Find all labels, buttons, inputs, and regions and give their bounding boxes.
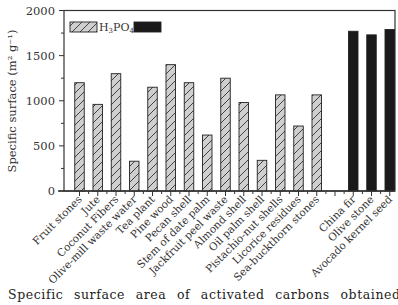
y-axis: 0500100015002000 <box>26 4 64 199</box>
bar <box>294 126 304 191</box>
svg-text:500: 500 <box>33 139 55 153</box>
bar <box>75 83 85 191</box>
y-axis-label: Specific surface (m² g⁻¹) <box>5 30 19 173</box>
x-axis: Fruit stonesJuteCoconut FibersOlive-mill… <box>30 191 395 286</box>
svg-text:1500: 1500 <box>26 49 55 63</box>
bar <box>93 104 103 191</box>
svg-text:2000: 2000 <box>26 4 55 18</box>
bar <box>257 160 267 191</box>
bar <box>239 103 249 191</box>
bar <box>184 83 194 191</box>
bar <box>349 31 359 191</box>
bar <box>367 35 377 191</box>
svg-text:0: 0 <box>48 184 55 198</box>
bar <box>276 95 286 191</box>
bar <box>148 87 158 191</box>
bar <box>312 95 322 191</box>
bar <box>203 135 213 191</box>
svg-text:H3PO4: H3PO4 <box>99 21 134 35</box>
figure-caption: Specific surface area of activated carbo… <box>8 287 398 302</box>
svg-text:1000: 1000 <box>26 94 55 108</box>
bar-chart: 0500100015002000 Fruit stonesJuteCoconut… <box>0 0 398 305</box>
plot-area <box>64 11 395 192</box>
bar <box>221 78 231 191</box>
bar <box>385 29 395 191</box>
bar <box>130 161 140 191</box>
bar <box>166 65 176 191</box>
legend: H3PO4 <box>70 21 161 35</box>
bar <box>111 74 121 191</box>
